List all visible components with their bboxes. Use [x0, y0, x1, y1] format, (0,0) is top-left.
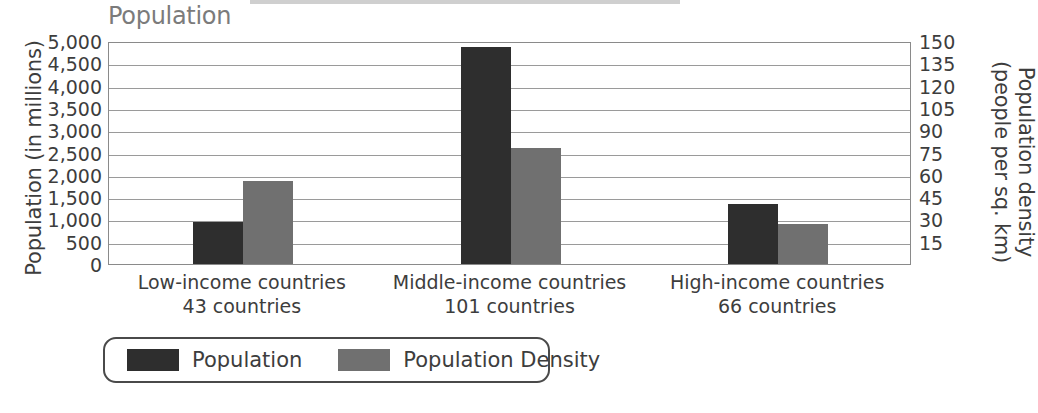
left-axis-tick: 0 — [32, 256, 102, 275]
right-axis-title-line1: Population density — [1014, 32, 1038, 292]
category-label-1: Middle-income countries101 countries — [376, 270, 644, 322]
bar-population-density-2 — [778, 224, 828, 264]
bar-population-1 — [461, 47, 511, 264]
right-axis-tick: 150 — [919, 33, 965, 52]
right-axis-tick: 90 — [919, 122, 965, 141]
legend-swatch-icon — [127, 349, 179, 371]
right-axis-tick: 30 — [919, 211, 965, 230]
left-axis-tick: 1,500 — [32, 189, 102, 208]
chart-title: Population — [108, 2, 231, 30]
left-axis-tick: 3,500 — [32, 99, 102, 118]
category-label-count: 101 countries — [376, 294, 644, 318]
legend-item-population-density[interactable]: Population Density — [338, 348, 600, 372]
left-axis-tick: 4,000 — [32, 77, 102, 96]
category-label-2: High-income countries66 countries — [643, 270, 911, 322]
category-label-0: Low-income countries43 countries — [108, 270, 376, 322]
legend-item-population[interactable]: Population — [127, 348, 302, 372]
category-label-count: 43 countries — [108, 294, 376, 318]
bar-population-density-1 — [511, 148, 561, 264]
right-axis-tick: 120 — [919, 77, 965, 96]
legend-label: Population — [192, 348, 302, 372]
left-axis-tick: 4,500 — [32, 55, 102, 74]
legend-label: Population Density — [403, 348, 600, 372]
right-axis-tick: 15 — [919, 233, 965, 252]
legend-swatch-icon — [338, 349, 390, 371]
left-axis-tick: 2,500 — [32, 144, 102, 163]
right-axis-tick: 60 — [919, 166, 965, 185]
bar-population-2 — [728, 204, 778, 264]
category-label-main: Low-income countries — [138, 271, 346, 293]
right-axis-tick: 75 — [919, 144, 965, 163]
right-axis-tick: 45 — [919, 189, 965, 208]
bar-population-0 — [193, 222, 243, 264]
left-axis-tick: 5,000 — [32, 33, 102, 52]
left-axis-tick: 1,000 — [32, 211, 102, 230]
left-axis-tick-labels: 5,0004,5004,0003,5003,0002,5002,0001,500… — [28, 42, 102, 265]
chart-legend: PopulationPopulation Density — [103, 337, 550, 383]
right-axis-tick-labels: 150135120105907560453015 — [919, 42, 969, 265]
bar-population-density-0 — [243, 181, 293, 264]
left-axis-tick: 3,000 — [32, 122, 102, 141]
right-axis-tick: 105 — [919, 99, 965, 118]
category-axis-labels: Low-income countries43 countriesMiddle-i… — [108, 270, 911, 322]
right-axis-tick: 135 — [919, 55, 965, 74]
category-label-count: 66 countries — [643, 294, 911, 318]
category-label-main: Middle-income countries — [393, 271, 627, 293]
plot-area — [108, 42, 911, 265]
right-axis-title-line2: (people per sq. km) — [990, 32, 1014, 292]
left-axis-tick: 2,000 — [32, 166, 102, 185]
left-axis-tick: 500 — [32, 233, 102, 252]
category-label-main: High-income countries — [670, 271, 884, 293]
